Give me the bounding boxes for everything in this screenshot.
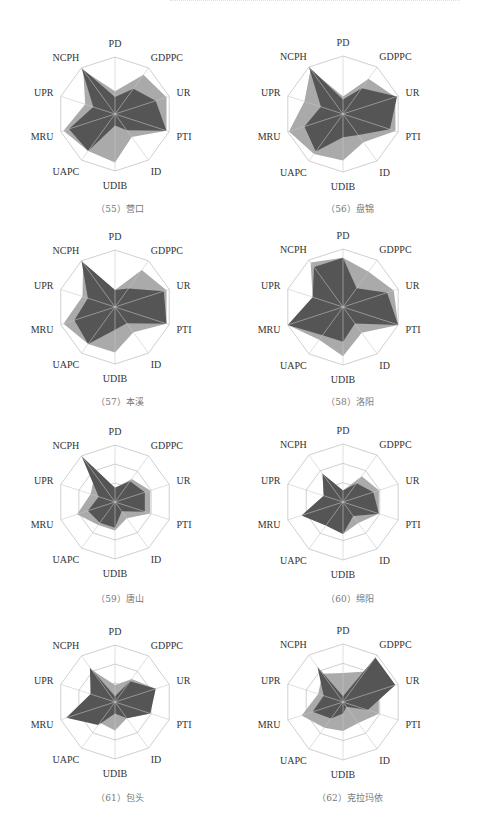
radar-panel-55: PDGDPPCURPTIIDUDIBUAPCMRUUPRNCPH（55）营口 bbox=[0, 10, 240, 206]
axis-label-pd: PD bbox=[337, 425, 350, 436]
axis-label-gdppc: GDPPC bbox=[151, 440, 184, 451]
axis-label-uapc: UAPC bbox=[53, 554, 80, 565]
axis-label-id: ID bbox=[151, 754, 162, 765]
axis-label-ncph: NCPH bbox=[280, 244, 307, 255]
radar-chart: PDGDPPCURPTIIDUDIBUAPCMRUUPRNCPH bbox=[0, 215, 240, 411]
axis-label-ur: UR bbox=[177, 475, 191, 486]
axis-label-ur: UR bbox=[405, 280, 419, 291]
axis-label-uapc: UAPC bbox=[280, 555, 307, 566]
axis-label-pd: PD bbox=[109, 626, 122, 637]
radar-panel-60: PDGDPPCURPTIIDUDIBUAPCMRUUPRNCPH（60）绵阳 bbox=[230, 410, 470, 606]
chart-caption: （56）盘锦 bbox=[230, 202, 470, 215]
axis-label-udib: UDIB bbox=[331, 181, 356, 192]
axis-label-gdppc: GDPPC bbox=[379, 439, 412, 450]
axis-label-ur: UR bbox=[177, 675, 191, 686]
chart-caption: （59）唐山 bbox=[0, 592, 240, 605]
axis-label-id: ID bbox=[379, 555, 390, 566]
axis-label-ncph: NCPH bbox=[53, 52, 80, 63]
axis-label-ur: UR bbox=[405, 475, 419, 486]
axis-label-mru: MRU bbox=[258, 719, 282, 730]
axis-label-ncph: NCPH bbox=[53, 440, 80, 451]
axis-label-mru: MRU bbox=[258, 324, 282, 335]
chart-caption: （57）本溪 bbox=[0, 395, 240, 408]
page-header-rule bbox=[170, 0, 460, 4]
axis-label-id: ID bbox=[379, 360, 390, 371]
axis-label-id: ID bbox=[379, 755, 390, 766]
axis-label-uapc: UAPC bbox=[280, 755, 307, 766]
chart-caption: （60）绵阳 bbox=[230, 592, 470, 605]
axis-label-ncph: NCPH bbox=[280, 439, 307, 450]
axis-label-udib: UDIB bbox=[103, 568, 128, 579]
axis-label-upr: UPR bbox=[34, 280, 54, 291]
axis-label-upr: UPR bbox=[34, 675, 54, 686]
chart-caption: （62）克拉玛依 bbox=[230, 791, 470, 804]
radar-chart: PDGDPPCURPTIIDUDIBUAPCMRUUPRNCPH bbox=[0, 605, 240, 801]
axis-label-udib: UDIB bbox=[331, 569, 356, 580]
axis-label-ncph: NCPH bbox=[53, 245, 80, 256]
axis-label-pti: PTI bbox=[405, 324, 420, 335]
axis-label-uapc: UAPC bbox=[53, 166, 80, 177]
axis-label-id: ID bbox=[379, 167, 390, 178]
axis-label-mru: MRU bbox=[258, 519, 282, 530]
axis-label-ncph: NCPH bbox=[280, 51, 307, 62]
radar-panel-59: PDGDPPCURPTIIDUDIBUAPCMRUUPRNCPH（59）唐山 bbox=[0, 410, 240, 606]
axis-label-gdppc: GDPPC bbox=[379, 639, 412, 650]
radar-panel-62: PDGDPPCURPTIIDUDIBUAPCMRUUPRNCPH（62）克拉玛依 bbox=[230, 605, 470, 801]
axis-label-ur: UR bbox=[177, 280, 191, 291]
radar-chart: PDGDPPCURPTIIDUDIBUAPCMRUUPRNCPH bbox=[230, 605, 470, 801]
axis-label-uapc: UAPC bbox=[280, 167, 307, 178]
axis-label-gdppc: GDPPC bbox=[151, 640, 184, 651]
axis-label-pd: PD bbox=[337, 37, 350, 48]
axis-label-id: ID bbox=[151, 554, 162, 565]
axis-label-udib: UDIB bbox=[103, 180, 128, 191]
axis-label-id: ID bbox=[151, 166, 162, 177]
axis-label-mru: MRU bbox=[31, 131, 55, 142]
axis-label-pti: PTI bbox=[405, 719, 420, 730]
axis-label-pd: PD bbox=[109, 38, 122, 49]
radar-chart: PDGDPPCURPTIIDUDIBUAPCMRUUPRNCPH bbox=[0, 410, 240, 606]
chart-caption: （58）洛阳 bbox=[230, 395, 470, 408]
axis-label-pti: PTI bbox=[177, 324, 192, 335]
axis-label-gdppc: GDPPC bbox=[151, 245, 184, 256]
axis-label-gdppc: GDPPC bbox=[151, 52, 184, 63]
axis-label-ur: UR bbox=[405, 675, 419, 686]
axis-label-upr: UPR bbox=[261, 475, 281, 486]
axis-label-upr: UPR bbox=[34, 475, 54, 486]
axis-label-gdppc: GDPPC bbox=[379, 51, 412, 62]
axis-label-udib: UDIB bbox=[103, 768, 128, 779]
axis-label-id: ID bbox=[151, 359, 162, 370]
axis-label-pd: PD bbox=[109, 426, 122, 437]
axis-label-upr: UPR bbox=[261, 87, 281, 98]
chart-caption: （61）包头 bbox=[0, 791, 240, 804]
axis-label-ncph: NCPH bbox=[280, 639, 307, 650]
chart-caption: （55）营口 bbox=[0, 202, 240, 215]
axis-label-upr: UPR bbox=[261, 675, 281, 686]
radar-chart: PDGDPPCURPTIIDUDIBUAPCMRUUPRNCPH bbox=[230, 215, 470, 411]
axis-label-pti: PTI bbox=[177, 519, 192, 530]
radar-panel-57: PDGDPPCURPTIIDUDIBUAPCMRUUPRNCPH（57）本溪 bbox=[0, 215, 240, 411]
axis-label-pd: PD bbox=[337, 230, 350, 241]
axis-label-udib: UDIB bbox=[331, 374, 356, 385]
axis-label-pd: PD bbox=[109, 231, 122, 242]
radar-chart: PDGDPPCURPTIIDUDIBUAPCMRUUPRNCPH bbox=[230, 10, 470, 206]
radar-panel-61: PDGDPPCURPTIIDUDIBUAPCMRUUPRNCPH（61）包头 bbox=[0, 605, 240, 801]
axis-label-mru: MRU bbox=[31, 719, 55, 730]
axis-label-ur: UR bbox=[405, 87, 419, 98]
axis-label-pti: PTI bbox=[177, 719, 192, 730]
axis-label-pd: PD bbox=[337, 625, 350, 636]
axis-label-uapc: UAPC bbox=[53, 359, 80, 370]
axis-label-ncph: NCPH bbox=[53, 640, 80, 651]
radar-chart: PDGDPPCURPTIIDUDIBUAPCMRUUPRNCPH bbox=[0, 10, 240, 206]
axis-label-pti: PTI bbox=[177, 131, 192, 142]
axis-label-udib: UDIB bbox=[331, 769, 356, 780]
axis-label-mru: MRU bbox=[31, 519, 55, 530]
axis-label-ur: UR bbox=[177, 87, 191, 98]
axis-label-pti: PTI bbox=[405, 519, 420, 530]
axis-label-uapc: UAPC bbox=[280, 360, 307, 371]
axis-label-mru: MRU bbox=[31, 324, 55, 335]
axis-label-upr: UPR bbox=[34, 87, 54, 98]
axis-label-mru: MRU bbox=[258, 131, 282, 142]
axis-label-gdppc: GDPPC bbox=[379, 244, 412, 255]
axis-label-uapc: UAPC bbox=[53, 754, 80, 765]
axis-label-pti: PTI bbox=[405, 131, 420, 142]
